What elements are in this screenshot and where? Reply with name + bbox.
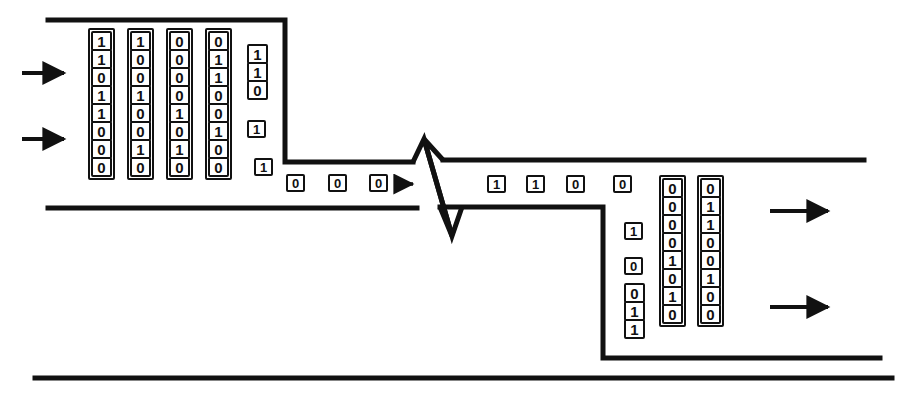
output-column-1-bit-3: 0 <box>662 214 683 234</box>
out-stagger-bit-2: 1 <box>624 222 643 240</box>
input-column-4-bit-5: 0 <box>208 103 229 123</box>
serial-out-bit-2: 1 <box>526 175 545 193</box>
serial-out-bit-3: 0 <box>566 175 585 193</box>
input-column-2-bit-1: 1 <box>130 31 151 51</box>
output-column-2-bit-6: 1 <box>700 268 721 288</box>
input-stagger-stack-bit-3: 0 <box>247 80 268 100</box>
serial-in-bit-3: 0 <box>369 174 388 192</box>
diagram-canvas: 1101100010010010000010100110010011011000… <box>0 0 905 393</box>
input-column-1-bit-6: 0 <box>91 121 112 141</box>
input-column-4-bit-3: 1 <box>208 67 229 87</box>
input-column-1-bit-5: 1 <box>91 103 112 123</box>
input-column-1-bit-1: 1 <box>91 31 112 51</box>
input-column-4-bit-4: 0 <box>208 85 229 105</box>
output-column-1-bit-8: 0 <box>662 304 683 324</box>
input-column-4-bit-6: 1 <box>208 121 229 141</box>
input-column-1-bit-4: 1 <box>91 85 112 105</box>
output-column-2-bit-5: 0 <box>700 250 721 270</box>
input-column-2-bit-6: 0 <box>130 121 151 141</box>
input-column-1-bit-2: 1 <box>91 49 112 69</box>
out-stagger-bit-1: 0 <box>613 175 632 193</box>
output-column-2-bit-4: 0 <box>700 232 721 252</box>
input-column-2-bit-8: 0 <box>130 157 151 177</box>
input-column-2-bit-3: 0 <box>130 67 151 87</box>
input-column-1: 11011000 <box>88 28 115 180</box>
input-stagger-stack-bit-2: 1 <box>247 62 268 82</box>
input-column-1-bit-7: 0 <box>91 139 112 159</box>
serial-in-bit-2: 0 <box>328 174 347 192</box>
stagger-bit-2: 1 <box>254 158 273 176</box>
input-column-3-bit-2: 0 <box>169 49 190 69</box>
input-column-3-bit-8: 0 <box>169 157 190 177</box>
input-column-3-bit-4: 0 <box>169 85 190 105</box>
output-column-1-bit-2: 0 <box>662 196 683 216</box>
input-column-2-bit-4: 1 <box>130 85 151 105</box>
input-column-2-bit-2: 0 <box>130 49 151 69</box>
output-stagger-stack: 011 <box>624 283 645 339</box>
input-column-3-bit-3: 0 <box>169 67 190 87</box>
input-column-2-bit-7: 1 <box>130 139 151 159</box>
output-stagger-stack-bit-3: 1 <box>624 319 645 339</box>
output-column-1-bit-5: 1 <box>662 250 683 270</box>
output-column-1-bit-6: 0 <box>662 268 683 288</box>
serial-in-bit-1: 0 <box>286 174 305 192</box>
output-column-2: 01100100 <box>697 175 724 327</box>
input-column-3: 00001010 <box>166 28 193 180</box>
input-column-2: 10010010 <box>127 28 154 180</box>
input-stagger-stack-bit-1: 1 <box>247 44 268 64</box>
output-column-2-bit-2: 1 <box>700 196 721 216</box>
output-column-2-bit-8: 0 <box>700 304 721 324</box>
input-column-4-bit-1: 0 <box>208 31 229 51</box>
output-column-2-bit-1: 0 <box>700 178 721 198</box>
serial-out-bit-1: 1 <box>487 175 506 193</box>
input-stagger-stack: 110 <box>247 44 268 100</box>
output-stagger-stack-bit-1: 0 <box>624 283 645 303</box>
output-column-1: 00001010 <box>659 175 686 327</box>
output-stagger-stack-bit-2: 1 <box>624 301 645 321</box>
input-column-4-bit-2: 1 <box>208 49 229 69</box>
output-column-1-bit-4: 0 <box>662 232 683 252</box>
input-column-4-bit-7: 0 <box>208 139 229 159</box>
output-column-1-bit-7: 1 <box>662 286 683 306</box>
output-column-2-bit-7: 0 <box>700 286 721 306</box>
input-column-1-bit-3: 0 <box>91 67 112 87</box>
out-stagger-bit-3: 0 <box>624 257 643 275</box>
output-column-2-bit-3: 1 <box>700 214 721 234</box>
stagger-bit-1: 1 <box>247 120 266 138</box>
input-column-2-bit-5: 0 <box>130 103 151 123</box>
input-column-4: 01100100 <box>205 28 232 180</box>
input-column-4-bit-8: 0 <box>208 157 229 177</box>
input-column-3-bit-5: 1 <box>169 103 190 123</box>
input-column-3-bit-1: 0 <box>169 31 190 51</box>
break-symbol <box>413 139 462 236</box>
output-column-1-bit-1: 0 <box>662 178 683 198</box>
input-column-3-bit-6: 0 <box>169 121 190 141</box>
input-column-3-bit-7: 1 <box>169 139 190 159</box>
input-column-1-bit-8: 0 <box>91 157 112 177</box>
